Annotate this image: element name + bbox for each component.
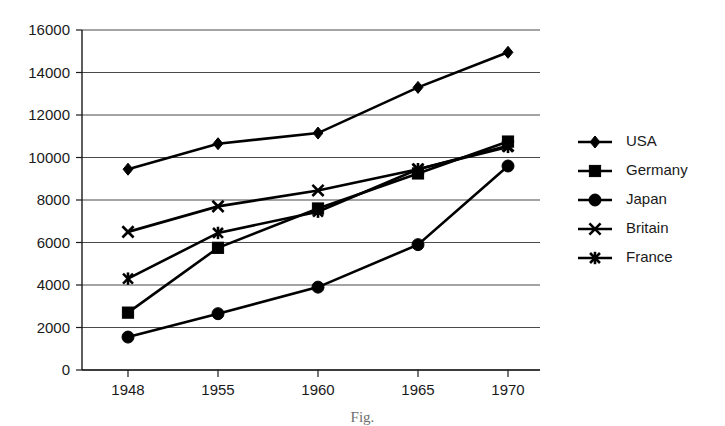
legend-item-germany[interactable]: Germany	[578, 161, 688, 178]
marker-diamond	[413, 81, 423, 93]
line-chart: 0200040006000800010000120001400016000 19…	[0, 0, 725, 426]
y-axis-ticks	[76, 30, 82, 370]
legend-label: USA	[626, 132, 657, 149]
y-tick-label: 16000	[28, 21, 70, 38]
y-tick-label: 8000	[37, 191, 70, 208]
y-tick-label: 10000	[28, 149, 70, 166]
data-series	[122, 46, 514, 343]
marker-square	[589, 165, 600, 176]
marker-square	[122, 307, 133, 318]
marker-diamond	[123, 163, 133, 175]
marker-square	[212, 242, 223, 253]
x-tick-label: 1965	[401, 381, 434, 398]
marker-diamond	[590, 136, 600, 148]
marker-circle	[412, 239, 424, 251]
legend-item-japan[interactable]: Japan	[578, 190, 667, 207]
x-axis-labels: 19481955196019651970	[111, 381, 524, 398]
marker-circle	[589, 194, 601, 206]
marker-circle	[502, 160, 514, 172]
x-axis-ticks	[128, 370, 508, 377]
chart-canvas: 0200040006000800010000120001400016000 19…	[0, 0, 725, 426]
x-tick-label: 1970	[491, 381, 524, 398]
gridlines	[82, 30, 540, 370]
marker-circle	[312, 281, 324, 293]
legend-label: France	[626, 248, 673, 265]
legend-item-usa[interactable]: USA	[578, 132, 657, 149]
x-tick-label: 1948	[111, 381, 144, 398]
figure-caption: Fig.	[0, 408, 725, 426]
legend-label: Germany	[626, 161, 688, 178]
legend-label: Japan	[626, 190, 667, 207]
legend-item-france[interactable]: France	[578, 248, 673, 265]
series-line-usa	[128, 52, 508, 169]
chart-legend: USAGermanyJapanBritainFrance	[578, 132, 688, 265]
series-markers-usa	[123, 46, 513, 175]
y-tick-label: 6000	[37, 234, 70, 251]
marker-diamond	[313, 127, 323, 139]
marker-circle	[122, 331, 134, 343]
x-tick-label: 1960	[301, 381, 334, 398]
y-tick-label: 14000	[28, 64, 70, 81]
y-tick-label: 0	[62, 361, 70, 378]
marker-circle	[212, 308, 224, 320]
x-tick-label: 1955	[201, 381, 234, 398]
legend-item-britain[interactable]: Britain	[578, 219, 669, 236]
legend-label: Britain	[626, 219, 669, 236]
y-tick-label: 12000	[28, 106, 70, 123]
marker-diamond	[213, 138, 223, 150]
marker-diamond	[503, 46, 513, 58]
y-axis-labels: 0200040006000800010000120001400016000	[28, 21, 70, 378]
y-tick-label: 2000	[37, 319, 70, 336]
y-tick-label: 4000	[37, 276, 70, 293]
